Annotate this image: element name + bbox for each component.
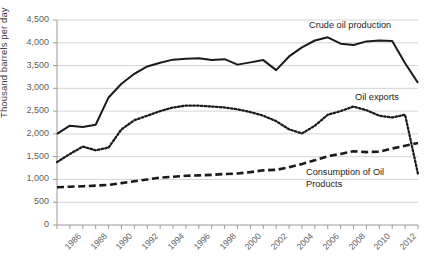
y-tick-label: 4,500: [5, 14, 49, 24]
y-tick-label: 4,000: [5, 37, 49, 47]
y-tick-label: 3,000: [5, 82, 49, 92]
y-tick-label: 500: [5, 196, 49, 206]
y-tick-marks-group: [53, 20, 57, 225]
x-tick-marks-group: [57, 225, 418, 229]
y-tick-label: 2,500: [5, 105, 49, 115]
y-tick-label: 3,500: [5, 60, 49, 70]
y-tick-label: 2,000: [5, 128, 49, 138]
y-tick-label: 0: [5, 219, 49, 229]
annotation-crude-oil-production: Crude oil production: [309, 20, 391, 32]
series-line-consumption-of-oil-products: [57, 143, 418, 187]
oil-statistics-line-chart: Thousand barrels per day 05001,0001,5002…: [0, 0, 424, 264]
annotation-consumption-line2: Products: [306, 179, 342, 191]
series-line-oil-exports: [57, 106, 418, 174]
series-line-crude-oil-production: [57, 37, 418, 134]
plot-canvas: [0, 0, 424, 264]
y-tick-label: 1,000: [5, 173, 49, 183]
y-tick-label: 1,500: [5, 151, 49, 161]
axes-group: [57, 20, 418, 225]
annotation-consumption-line1: Consumption of Oil: [306, 167, 384, 179]
series-paths-group: [57, 37, 418, 187]
annotation-oil-exports: Oil exports: [355, 92, 399, 104]
